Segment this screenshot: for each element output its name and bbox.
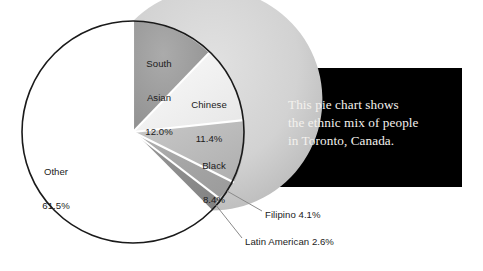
pie-label-black-value: 8.4% <box>190 194 238 205</box>
pie-label-black: Black 8.4% <box>190 137 238 228</box>
pie-label-south-asian-line1: South <box>133 58 185 69</box>
pie-label-chinese-line1: Chinese <box>181 99 237 110</box>
pie-label-latin-american: Latin American 2.6% <box>245 236 334 247</box>
pie-label-black-line1: Black <box>190 160 238 171</box>
pie-label-south-asian: South Asian 12.0% <box>133 35 185 160</box>
callout-text: This pie chart shows the ethnic mix of p… <box>288 96 458 151</box>
callout-line-3: in Toronto, Canada. <box>288 132 458 150</box>
callout-line-1: This pie chart shows <box>288 96 458 114</box>
pie-label-filipino: Filipino 4.1% <box>265 209 321 220</box>
pie-label-south-asian-line2: Asian <box>133 92 185 103</box>
pie-label-south-asian-value: 12.0% <box>133 126 185 137</box>
pie-label-other: Other 61.5% <box>29 143 83 234</box>
pie-label-other-line1: Other <box>29 166 83 177</box>
callout-line-2: the ethnic mix of people <box>288 114 458 132</box>
pie-chart-figure: South Asian 12.0% Chinese 11.4% Black 8.… <box>0 0 483 271</box>
pie-label-other-value: 61.5% <box>29 200 83 211</box>
